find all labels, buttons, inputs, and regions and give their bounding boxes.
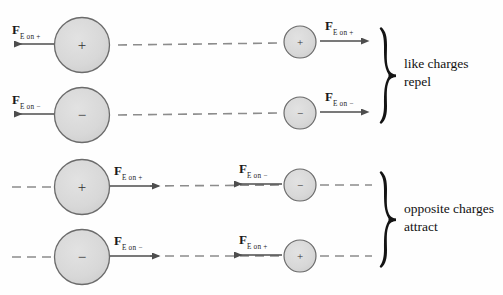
row-1-left-force-symbol: F [12,22,20,37]
row-3-left-force-subscript: E on + [122,174,142,182]
brace-like-label-line2: repel [404,74,431,89]
row-2-left-force-subscript: E on − [20,103,40,111]
brace-opposite-label-line1: opposite charges [404,201,494,216]
brace-opposite-label-line2: attract [404,219,438,234]
row-4-left-charge-sign: − [78,249,86,265]
brace-opposite-charges: opposite charges attract [380,171,495,268]
row-4-right-force-symbol: F [239,232,247,247]
brace-opposite-glyph [380,171,396,268]
row-3-left-force-symbol: F [114,163,122,178]
row-2: − F E on − − F E on − [12,88,361,143]
row-1-left-charge-sign: + [78,37,86,53]
row-4-left-force-subscript: E on − [122,244,142,252]
row-2-right-charge-sign: − [297,107,303,119]
row-3-left-charge-sign: + [78,179,86,195]
row-4-right-force-subscript: E on + [247,243,267,251]
row-2-right-force-subscript: E on − [333,100,353,108]
charge-force-diagram: + F E on + + F E on + − F E on − − F E o… [0,0,503,295]
row-1-left-force-subscript: E on + [20,33,40,41]
row-3: + F E on + − F E on − [12,160,372,215]
row-2-right-force-symbol: F [325,89,333,104]
row-1: + F E on + + F E on + [12,18,361,73]
row-3-right-charge-sign: − [297,179,303,191]
row-4: − F E on − + F E on + [12,230,372,285]
row-1-right-force-symbol: F [325,18,333,33]
row-1-right-force-subscript: E on + [333,29,353,37]
brace-like-glyph [380,27,396,124]
brace-like-charges: like charges repel [380,27,469,124]
brace-like-label-line1: like charges [404,56,469,71]
row-1-dashed-axis [118,43,282,45]
row-2-dashed-axis [118,113,282,115]
row-2-left-force-symbol: F [12,92,20,107]
figure-canvas: + F E on + + F E on + − F E on − − F E o… [0,0,503,295]
row-4-left-force-symbol: F [114,233,122,248]
row-3-dashed-axis [150,185,282,186]
row-3-right-force-subscript: E on − [247,172,267,180]
row-3-right-force-symbol: F [239,161,247,176]
row-1-right-charge-sign: + [297,36,303,48]
row-2-left-charge-sign: − [78,107,86,123]
row-4-right-charge-sign: + [297,250,303,262]
